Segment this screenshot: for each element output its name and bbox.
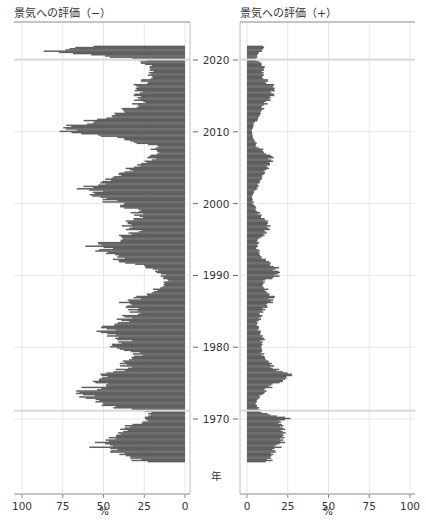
year-tick-label: 2020	[203, 54, 230, 66]
right-x-tick-label: 100	[400, 500, 420, 512]
year-tick-label: 1970	[203, 413, 230, 425]
right-bars	[240, 46, 415, 463]
year-tick-label: 2000	[203, 198, 230, 210]
year-axis-label: 年	[211, 470, 221, 482]
left-x-axis-label: %	[99, 505, 109, 517]
chart-canvas: 1007550250 % 202020102000199019801970 年 …	[0, 0, 426, 522]
left-bars	[14, 46, 190, 463]
left-panel: 1007550250 %	[12, 22, 190, 517]
right-x-axis-label: %	[323, 505, 333, 517]
left-x-tick-label: 100	[12, 500, 32, 512]
right-x-tick-label: 0	[244, 500, 251, 512]
right-x-tick-label: 25	[281, 500, 294, 512]
year-tick-label: 2010	[203, 126, 230, 138]
left-x-tick-label: 25	[138, 500, 151, 512]
year-tick-label: 1990	[203, 269, 230, 281]
left-x-tick-label: 75	[56, 500, 69, 512]
year-tick-label: 1980	[203, 341, 230, 353]
right-panel: 0255075100 %	[240, 22, 420, 517]
left-x-tick-label: 0	[182, 500, 189, 512]
year-axis: 202020102000199019801970	[193, 54, 238, 425]
right-x-tick-label: 75	[363, 500, 376, 512]
